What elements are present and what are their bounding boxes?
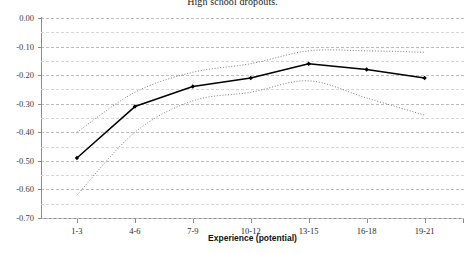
chart-figure: High school dropouts. 0.00-0.10-0.20-0.3… <box>0 0 465 254</box>
series-line-dotted <box>77 81 425 195</box>
data-point-marker <box>249 76 253 80</box>
data-point-marker <box>364 67 368 71</box>
series-layer <box>0 0 465 254</box>
data-point-marker <box>422 76 426 80</box>
data-point-marker <box>191 84 195 88</box>
data-point-marker <box>307 62 311 66</box>
series-line-dotted <box>77 50 425 132</box>
